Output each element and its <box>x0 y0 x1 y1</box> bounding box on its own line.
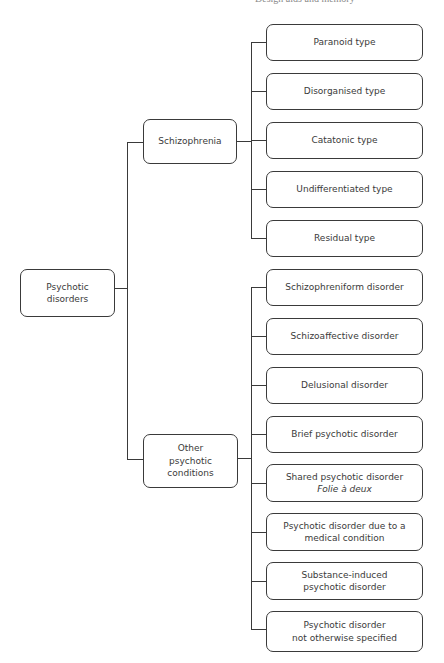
node-label: conditions <box>167 467 213 480</box>
node-psychotic-disorder-medical-condition: Psychotic disorder due to a medical cond… <box>266 513 423 551</box>
node-label: disorders <box>47 293 89 306</box>
node-label: Catatonic type <box>312 134 378 147</box>
connector-schizophrenia-out <box>236 141 252 142</box>
node-substance-induced-psychotic-disorder: Substance-induced psychotic disorder <box>266 562 423 600</box>
node-catatonic-type: Catatonic type <box>266 122 423 159</box>
node-label: not otherwise specified <box>292 632 397 645</box>
node-shared-psychotic-disorder: Shared psychotic disorder Folie à deux <box>266 464 423 502</box>
connector-residual <box>251 238 266 239</box>
node-delusional-disorder: Delusional disorder <box>266 367 423 404</box>
node-label: Shared psychotic disorder <box>286 471 403 484</box>
node-label: Paranoid type <box>313 36 375 49</box>
node-undifferentiated-type: Undifferentiated type <box>266 171 423 208</box>
node-label: Psychotic <box>46 281 88 294</box>
node-label: Schizophrenia <box>158 135 221 148</box>
node-label: Schizophreniform disorder <box>285 281 404 294</box>
connector-paranoid <box>251 42 266 43</box>
connector-schizophrenia-in <box>127 142 143 143</box>
node-disorganised-type: Disorganised type <box>266 73 423 110</box>
connector-other-in <box>127 459 143 460</box>
node-label: psychotic disorder <box>303 581 386 594</box>
node-label: Schizoaffective disorder <box>291 330 399 343</box>
running-header: Design aids and memory <box>255 0 355 4</box>
node-subtitle: Folie à deux <box>317 483 372 496</box>
connector-root <box>114 288 128 289</box>
connector-catatonic <box>251 140 266 141</box>
node-label: Undifferentiated type <box>296 183 392 196</box>
connector-undifferentiated <box>251 189 266 190</box>
connector-schizoaffective <box>251 336 266 337</box>
connector-disorganised <box>251 91 266 92</box>
node-label: Disorganised type <box>304 85 386 98</box>
node-label: Psychotic disorder due to a <box>283 520 405 533</box>
node-label: Substance-induced <box>301 569 387 582</box>
node-label: Residual type <box>314 232 375 245</box>
node-paranoid-type: Paranoid type <box>266 24 423 61</box>
connector-other-out <box>237 458 252 459</box>
trunk-root <box>127 142 128 460</box>
node-label: Other <box>178 442 204 455</box>
node-label: Psychotic disorder <box>303 619 385 632</box>
node-residual-type: Residual type <box>266 220 423 257</box>
connector-medical <box>251 532 266 533</box>
node-psychotic-disorders: Psychotic disorders <box>20 269 115 317</box>
connector-brief <box>251 434 266 435</box>
node-schizophreniform-disorder: Schizophreniform disorder <box>266 269 423 306</box>
node-schizoaffective-disorder: Schizoaffective disorder <box>266 318 423 355</box>
node-label: medical condition <box>305 532 385 545</box>
node-label: Delusional disorder <box>301 379 388 392</box>
connector-substance <box>251 581 266 582</box>
node-brief-psychotic-disorder: Brief psychotic disorder <box>266 416 423 453</box>
trunk-other <box>251 287 252 630</box>
connector-delusional <box>251 385 266 386</box>
connector-shared <box>251 483 266 484</box>
node-schizophrenia: Schizophrenia <box>143 119 237 164</box>
connector-schizophreniform <box>251 287 266 288</box>
node-other-psychotic-conditions: Other psychotic conditions <box>143 434 238 488</box>
node-label: psychotic <box>169 455 212 468</box>
connector-nos <box>251 629 266 630</box>
node-label: Brief psychotic disorder <box>291 428 398 441</box>
node-psychotic-disorder-nos: Psychotic disorder not otherwise specifi… <box>266 611 423 652</box>
